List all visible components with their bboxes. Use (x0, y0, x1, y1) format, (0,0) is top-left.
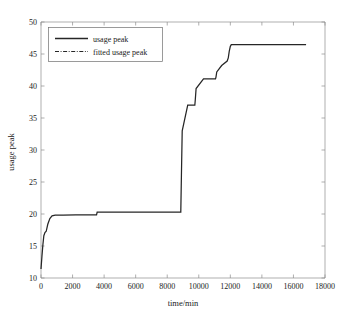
y-tick-label: 35 (29, 114, 37, 123)
x-axis-title: time/min (168, 298, 199, 308)
y-tick-label: 10 (29, 274, 37, 283)
x-tick-label: 6000 (128, 282, 144, 291)
x-tick-label: 14000 (252, 282, 272, 291)
y-tick-label: 40 (29, 82, 37, 91)
x-tick-label: 16000 (283, 282, 303, 291)
y-tick-label: 50 (29, 18, 37, 27)
y-tick-label: 20 (29, 210, 37, 219)
legend-label-usage-peak: usage peak (93, 35, 128, 44)
y-tick-label: 30 (29, 146, 37, 155)
x-tick-label: 12000 (220, 282, 240, 291)
x-tick-label: 10000 (189, 282, 209, 291)
line-chart: 0200040006000800010000120001400016000180… (0, 0, 346, 323)
y-tick-label: 45 (29, 50, 37, 59)
chart-figure: 0200040006000800010000120001400016000180… (0, 0, 346, 323)
x-tick-label: 0 (39, 282, 43, 291)
y-axis-tick-labels: 101520253035404550 (29, 18, 37, 283)
x-tick-label: 18000 (315, 282, 335, 291)
x-tick-label: 2000 (65, 282, 81, 291)
x-tick-label: 8000 (159, 282, 175, 291)
y-tick-label: 25 (29, 178, 37, 187)
chart-legend: usage peak fitted usage peak (49, 28, 163, 62)
legend-label-fitted-usage-peak: fitted usage peak (93, 48, 147, 57)
y-tick-label: 15 (29, 242, 37, 251)
x-tick-label: 4000 (96, 282, 112, 291)
y-axis-title: usage peak (6, 132, 16, 170)
